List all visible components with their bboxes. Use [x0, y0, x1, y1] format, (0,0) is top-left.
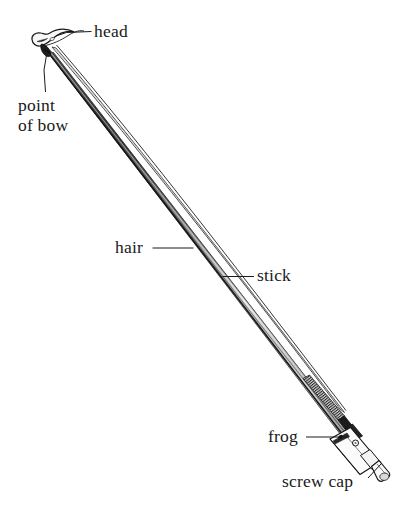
label-point-of-bow-line2: of bow	[18, 115, 68, 135]
label-point-of-bow-line1: point	[18, 95, 55, 115]
label-point-of-bow: pointof bow	[18, 96, 68, 135]
label-frog: frog	[268, 427, 298, 447]
violin-bow-illustration	[0, 0, 414, 525]
label-stick: stick	[257, 266, 291, 286]
label-head: head	[94, 22, 128, 42]
label-hair: hair	[115, 238, 143, 258]
winding-grip	[303, 375, 353, 431]
stick-shaft	[46, 50, 372, 469]
hair-ribbon	[52, 45, 346, 413]
bow-diagram-page: head pointof bow hair stick frog screw c…	[0, 0, 414, 525]
leader-line-point-of-bow	[44, 55, 47, 92]
label-screw-cap: screw cap	[282, 472, 353, 492]
